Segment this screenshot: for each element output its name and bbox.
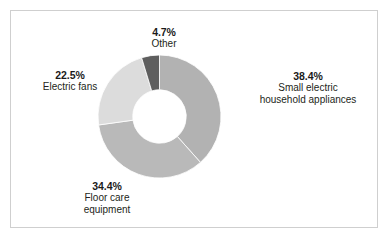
slice-label-electric-fans: 22.5% Electric fans — [18, 69, 122, 93]
slice-label-small-electric-household-appliances: 38.4% Small electric household appliance… — [238, 70, 378, 106]
slice-name-electric-fans: Electric fans — [18, 81, 122, 93]
chart-figure: 4.7% Other 38.4% Small electric househol… — [0, 0, 389, 239]
slice-percent-electric-fans: 22.5% — [18, 69, 122, 81]
slice-name-floor-care-line2: equipment — [52, 204, 162, 216]
slice-name-small-electric-line2: household appliances — [238, 94, 378, 106]
slice-percent-floor-care: 34.4% — [52, 180, 162, 192]
slice-percent-small-electric: 38.4% — [238, 70, 378, 82]
slice-name-floor-care-line1: Floor care — [52, 192, 162, 204]
slice-percent-other: 4.7% — [116, 26, 212, 38]
donut-chart: 4.7% Other 38.4% Small electric househol… — [0, 0, 389, 239]
slice-label-floor-care-equipment: 34.4% Floor care equipment — [52, 180, 162, 216]
slice-name-small-electric-line1: Small electric — [238, 82, 378, 94]
slice-name-other: Other — [116, 38, 212, 50]
slice-label-other: 4.7% Other — [116, 26, 212, 50]
